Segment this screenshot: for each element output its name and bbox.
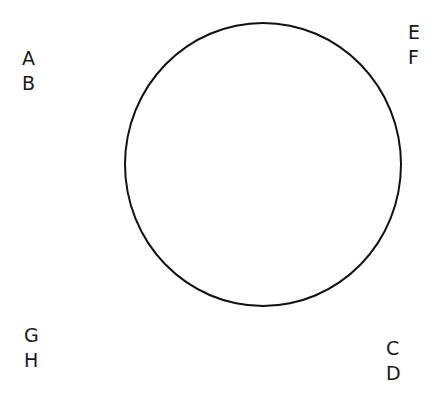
label-h: H — [24, 348, 39, 373]
label-group-top-left: A B — [22, 46, 35, 96]
label-group-top-right: E F — [408, 20, 420, 70]
label-g: G — [24, 323, 39, 348]
label-b: B — [22, 71, 35, 96]
label-a: A — [22, 46, 35, 71]
circle — [124, 22, 402, 307]
label-f: F — [408, 45, 420, 70]
label-d: D — [386, 361, 401, 386]
label-group-bottom-left: G H — [24, 323, 39, 373]
label-e: E — [408, 20, 420, 45]
label-group-bottom-right: C D — [386, 336, 401, 386]
label-c: C — [386, 336, 401, 361]
